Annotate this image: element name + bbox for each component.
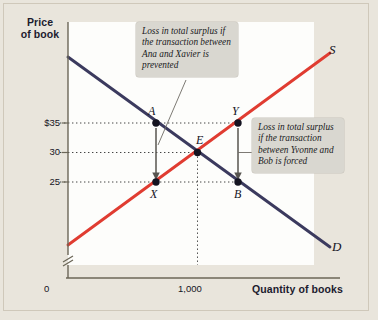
x-tick-label-1000: 1,000 (178, 283, 202, 294)
point-A (152, 119, 159, 126)
y-axis-ticks (62, 123, 68, 182)
point-X (152, 178, 159, 185)
y-tick-label-30: 30 (26, 146, 60, 157)
y-tick-label-35: $35 (26, 117, 60, 128)
axis-break-icon (63, 256, 73, 266)
point-label-B: B (234, 187, 241, 202)
x-axis-title: Quantity of books (252, 283, 343, 295)
y-tick-label-25: 25 (26, 176, 60, 187)
supply-curve-label: S (329, 42, 336, 58)
origin-label: 0 (44, 283, 49, 294)
point-label-E: E (196, 133, 203, 148)
point-E (194, 149, 201, 156)
point-label-X: X (150, 187, 157, 202)
y-axis-title: Price of book (14, 16, 66, 40)
point-Y (234, 119, 241, 126)
demand-curve-label: D (332, 239, 341, 255)
leader-line-left-callout (158, 80, 186, 145)
point-B (234, 178, 241, 185)
callout-yvonne-bob: Loss in total surplus if the transaction… (252, 118, 344, 173)
point-label-Y: Y (232, 104, 239, 119)
callout-ana-xavier: Loss in total surplus if the transaction… (136, 22, 238, 77)
figure-container: Price of book Quantity of books $35 30 2… (0, 0, 378, 320)
point-label-A: A (148, 104, 155, 119)
